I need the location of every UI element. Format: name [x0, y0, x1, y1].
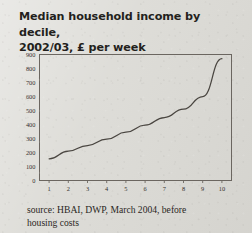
x-tick-label: 8 — [182, 185, 185, 192]
y-tick-label: 300 — [26, 135, 36, 142]
x-tick-label: 10 — [219, 185, 225, 192]
y-tick-label: 500 — [26, 107, 36, 114]
y-tick-label: 200 — [26, 149, 36, 156]
y-tick-label: 100 — [26, 163, 36, 170]
x-tick-label: 7 — [163, 185, 167, 192]
y-tick-label: 900 — [26, 51, 36, 58]
x-tick-label: 2 — [67, 185, 70, 192]
y-tick-label: 400 — [26, 121, 36, 128]
source-note-line-1: source: HBAI, DWP, March 2004, before — [27, 204, 186, 215]
x-tick-label: 9 — [201, 185, 204, 192]
y-tick-label: 800 — [26, 65, 36, 72]
y-tick-label: 700 — [26, 79, 36, 86]
scanned-chart-page: Median household income by decile, 2002/… — [0, 0, 252, 233]
x-tick-label: 4 — [105, 185, 109, 192]
x-tick-label: 6 — [143, 185, 146, 192]
chart-title-line-1: Median household income by decile, — [19, 10, 200, 39]
x-axis-tick-labels: 12345678910 — [47, 185, 225, 192]
chart-plot-area: 0100200300400500600700800900 12345678910 — [0, 46, 252, 194]
plot-frame — [40, 55, 232, 181]
x-tick-label: 3 — [86, 185, 89, 192]
y-axis-tick-labels: 0100200300400500600700800900 — [26, 51, 36, 184]
source-note-line-2: housing costs — [27, 216, 242, 229]
source-note: source: HBAI, DWP, March 2004, before ho… — [27, 203, 242, 229]
y-tick-label: 600 — [26, 93, 36, 100]
x-tick-label: 1 — [47, 185, 50, 192]
income-series-line — [49, 59, 222, 159]
y-tick-label: 0 — [32, 177, 35, 184]
line-chart: 0100200300400500600700800900 12345678910 — [0, 46, 252, 194]
x-tick-label: 5 — [124, 185, 127, 192]
